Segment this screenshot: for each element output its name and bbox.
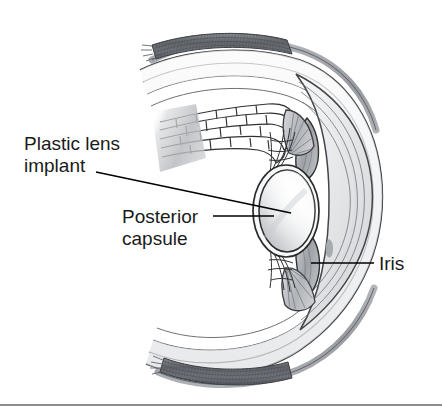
eye-diagram-figure: Plastic lens implant Posterior capsule I… <box>0 0 442 411</box>
muscle-fibers-superior <box>141 45 154 61</box>
plastic-lens-implant <box>259 170 315 252</box>
retina-layers-cutaway <box>152 104 294 172</box>
ciliary-body-superior <box>283 110 316 156</box>
label-posterior-capsule-line1: Posterior <box>122 206 199 227</box>
label-plastic-lens-line1: Plastic lens <box>24 133 120 154</box>
label-plastic-lens-line2: implant <box>24 155 86 176</box>
retina-cutaway-block <box>152 104 206 172</box>
bottom-divider-rule <box>0 404 442 406</box>
eye-cross-section-illustration: Plastic lens implant Posterior capsule I… <box>0 0 442 411</box>
label-posterior-capsule-line2: capsule <box>122 228 188 249</box>
label-iris: Iris <box>379 253 404 274</box>
